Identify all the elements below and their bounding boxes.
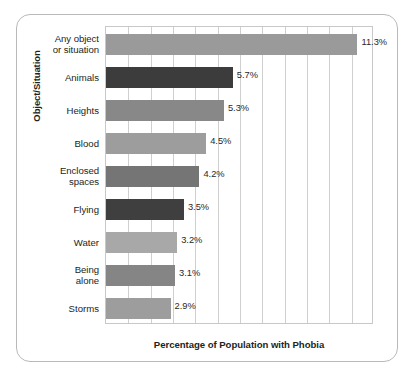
category-label: Flying [0,204,99,215]
bar-row: Enclosedspaces4.2% [0,160,415,193]
x-axis-title: Percentage of Population with Phobia [105,339,373,350]
bar [106,199,184,220]
bar-value-label: 3.2% [181,235,202,245]
bar-value-label: 2.9% [175,301,196,311]
bar-row: Blood4.5% [0,127,415,160]
bar [106,232,177,253]
category-label: Water [0,237,99,248]
category-label: Enclosedspaces [0,165,99,187]
bar [106,100,224,121]
bar [106,166,199,187]
bar-value-label: 5.3% [228,103,249,113]
bar [106,265,175,286]
category-label: Blood [0,138,99,149]
category-label-line: spaces [0,176,99,187]
category-label: Any objector situation [0,33,99,55]
category-label-line: alone [0,275,99,286]
bar-row: Flying3.5% [0,193,415,226]
bar-row: Water3.2% [0,226,415,259]
bar-value-label: 5.7% [237,70,258,80]
bar-row: Any objector situation11.3% [0,28,415,61]
category-label-line: Enclosed [0,165,99,176]
bar-value-label: 3.1% [179,268,200,278]
category-label: Animals [0,72,99,83]
category-label-line: Being [0,264,99,275]
category-label-line: Any object [0,33,99,44]
bar [106,133,206,154]
bar [106,298,171,319]
category-label: Beingalone [0,264,99,286]
bar [106,34,357,55]
bar-row: Animals5.7% [0,61,415,94]
bar-row: Storms2.9% [0,292,415,325]
category-label-line: or situation [0,44,99,55]
bar-row: Heights5.3% [0,94,415,127]
bar-value-label: 4.2% [203,169,224,179]
bar [106,67,233,88]
category-label: Storms [0,303,99,314]
bar-value-label: 11.3% [361,37,387,47]
bar-value-label: 3.5% [188,202,209,212]
phobia-bar-chart: Object/Situation Any objector situation1… [0,0,415,375]
category-label: Heights [0,105,99,116]
bar-row: Beingalone3.1% [0,259,415,292]
bar-value-label: 4.5% [210,136,231,146]
